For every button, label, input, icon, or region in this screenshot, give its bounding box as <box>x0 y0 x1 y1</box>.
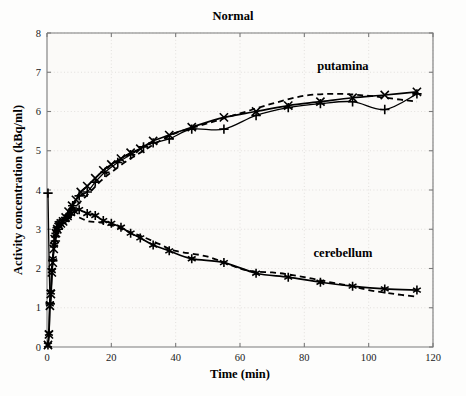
chart-figure: 012345678020406080100120 putaminacerebel… <box>0 0 466 396</box>
x-tick-label: 80 <box>299 352 310 363</box>
page-title: Normal <box>213 9 254 23</box>
y-tick-label: 1 <box>36 302 41 313</box>
x-tick-label: 40 <box>170 352 181 363</box>
y-axis-title: Activity concentration (kBq/ml) <box>11 105 25 275</box>
x-tick-label: 120 <box>425 352 441 363</box>
y-tick-label: 2 <box>36 263 41 274</box>
y-tick-label: 4 <box>36 185 42 196</box>
annotation-putamina: putamina <box>317 59 369 73</box>
y-tick-label: 8 <box>36 28 41 39</box>
y-tick-label: 7 <box>36 67 41 78</box>
y-tick-label: 6 <box>36 106 41 117</box>
x-tick-label: 0 <box>44 352 49 363</box>
y-tick-label: 0 <box>36 342 41 353</box>
x-tick-label: 20 <box>106 352 117 363</box>
x-tick-label: 100 <box>361 352 377 363</box>
y-tick-label: 3 <box>36 224 41 235</box>
x-tick-label: 60 <box>235 352 246 363</box>
y-tick-label: 5 <box>36 145 41 156</box>
activity-concentration-plot: 012345678020406080100120 putaminacerebel… <box>0 0 466 396</box>
annotation-cerebellum: cerebellum <box>314 246 373 260</box>
x-axis-title: Time (min) <box>210 367 270 381</box>
